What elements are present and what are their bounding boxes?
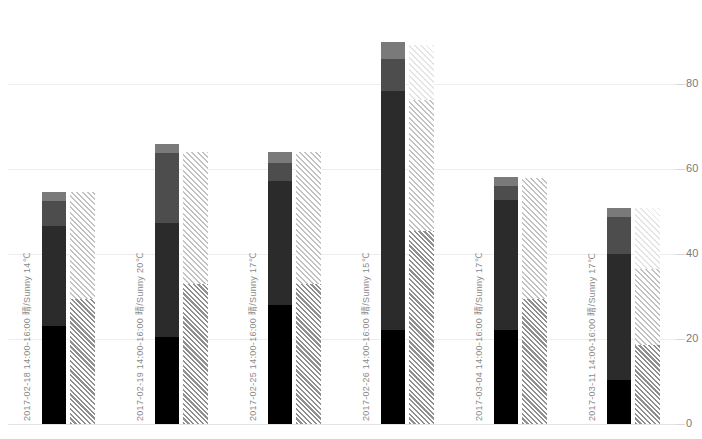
stacked-bar-hatched[interactable] xyxy=(183,152,208,424)
bar-group xyxy=(494,423,547,424)
bar-segment[interactable] xyxy=(607,217,631,253)
y-axis-tick-label: 40 xyxy=(686,248,702,259)
bar-segment[interactable] xyxy=(607,208,631,218)
gridline-40 xyxy=(8,254,684,255)
bar-segment[interactable] xyxy=(42,192,66,201)
stacked-bar-hatched[interactable] xyxy=(70,192,95,424)
bar-group xyxy=(607,423,660,424)
bar-segment[interactable] xyxy=(70,299,95,424)
bar-segment[interactable] xyxy=(381,330,405,424)
bar-segment[interactable] xyxy=(494,186,518,200)
bar-segment[interactable] xyxy=(494,200,518,330)
stacked-bar-solid[interactable] xyxy=(494,177,518,424)
bar-segment[interactable] xyxy=(155,337,179,424)
y-axis-tick-label: 80 xyxy=(686,78,702,89)
bar-segment[interactable] xyxy=(268,152,292,163)
bar-segment[interactable] xyxy=(183,284,208,424)
bar-segment[interactable] xyxy=(494,330,518,424)
y-axis-tick-label: 20 xyxy=(686,333,702,344)
bar-segment[interactable] xyxy=(409,231,434,424)
gridline-80 xyxy=(8,84,684,85)
bar-segment[interactable] xyxy=(381,91,405,330)
bar-group xyxy=(42,423,95,424)
x-axis-category-label: 2017-02-19 14:00-16:00 晴/Sunny 20℃ xyxy=(136,252,145,421)
bar-segment[interactable] xyxy=(183,152,208,284)
x-axis-category-label: 2017-03-04 14:00-16:00 晴/Sunny 17℃ xyxy=(475,252,484,421)
bar-segment[interactable] xyxy=(268,305,292,424)
bar-segment[interactable] xyxy=(522,299,547,424)
stacked-bar-solid[interactable] xyxy=(381,42,405,424)
y-tick-mark-20 xyxy=(676,339,685,340)
stacked-bar-solid[interactable] xyxy=(268,152,292,424)
gridline-60 xyxy=(8,169,684,170)
bar-segment[interactable] xyxy=(607,380,631,424)
bar-segment[interactable] xyxy=(409,100,434,230)
x-axis-category-label: 2017-03-11 14:00-16:00 晴/Sunny 17℃ xyxy=(588,253,597,421)
gridline-20 xyxy=(8,339,684,340)
bar-segment[interactable] xyxy=(381,59,405,91)
gridline-0 xyxy=(8,424,684,425)
bar-segment[interactable] xyxy=(155,153,179,222)
stacked-bar-solid[interactable] xyxy=(42,192,66,424)
plot-area: 806040200 2017-02-18 14:00-16:00 晴/Sunny… xyxy=(0,0,702,439)
bar-segment[interactable] xyxy=(42,326,66,424)
y-tick-mark-0 xyxy=(676,424,685,425)
bar-segment[interactable] xyxy=(155,223,179,338)
bar-chart: 806040200 2017-02-18 14:00-16:00 晴/Sunny… xyxy=(0,0,702,439)
stacked-bar-hatched[interactable] xyxy=(635,208,660,424)
bar-segment[interactable] xyxy=(381,42,405,59)
stacked-bar-hatched[interactable] xyxy=(409,45,434,424)
bar-segment[interactable] xyxy=(268,163,292,181)
bar-segment[interactable] xyxy=(635,345,660,424)
bar-segment[interactable] xyxy=(155,144,179,154)
stacked-bar-solid[interactable] xyxy=(155,144,179,425)
bar-segment[interactable] xyxy=(268,181,292,306)
bar-segment[interactable] xyxy=(522,178,547,298)
y-axis-tick-label: 0 xyxy=(686,418,702,429)
bar-segment[interactable] xyxy=(635,208,660,269)
bar-group xyxy=(268,423,321,424)
y-tick-mark-80 xyxy=(676,84,685,85)
y-tick-mark-60 xyxy=(676,169,685,170)
bar-segment[interactable] xyxy=(70,192,95,298)
x-axis-category-label: 2017-02-18 14:00-16:00 晴/Sunny 14℃ xyxy=(23,252,32,421)
bar-segment[interactable] xyxy=(296,284,321,424)
bar-segment[interactable] xyxy=(42,226,66,326)
stacked-bar-hatched[interactable] xyxy=(296,152,321,424)
y-tick-mark-40 xyxy=(676,254,685,255)
stacked-bar-solid[interactable] xyxy=(607,208,631,424)
y-axis-tick-label: 60 xyxy=(686,163,702,174)
bar-segment[interactable] xyxy=(494,177,518,187)
x-axis-category-label: 2017-02-26 14:00-16:00 晴/Sunny 15℃ xyxy=(362,252,371,421)
x-axis-category-label: 2017-02-25 14:00-16:00 晴/Sunny 17℃ xyxy=(249,252,258,421)
bar-group xyxy=(381,423,434,424)
stacked-bar-hatched[interactable] xyxy=(522,178,547,424)
bar-group xyxy=(155,423,208,424)
bar-segment[interactable] xyxy=(635,269,660,346)
bar-segment[interactable] xyxy=(296,152,321,283)
bar-segment[interactable] xyxy=(42,201,66,226)
bar-segment[interactable] xyxy=(409,45,434,100)
bar-segment[interactable] xyxy=(607,254,631,381)
